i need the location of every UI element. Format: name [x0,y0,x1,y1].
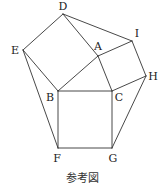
label-I: I [135,27,139,40]
label-A: A [93,40,103,53]
segment-HC [112,76,146,91]
figure-segments [23,14,146,148]
segment-IH [132,41,146,76]
segment-AI [98,41,132,56]
label-C: C [115,91,123,104]
segment-DE [23,14,63,50]
label-E: E [11,44,19,57]
segment-DI [63,14,132,41]
label-H: H [148,70,158,83]
label-G: G [109,152,118,165]
label-B: B [46,91,54,104]
segment-AD [63,14,98,56]
segment-EB [23,50,58,91]
label-F: F [53,152,61,165]
segment-CA [98,56,112,91]
geometry-figure: A B C D E F G H I 参考図 [0,0,164,187]
figure-caption: 参考図 [66,171,99,185]
segment-BA [58,56,98,91]
segment-HG [112,76,146,148]
label-D: D [59,0,68,13]
point-labels: A B C D E F G H I [11,0,158,165]
